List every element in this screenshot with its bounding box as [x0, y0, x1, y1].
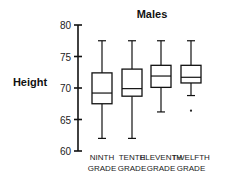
iqr-box [122, 69, 142, 96]
x-category-label: GRADE [118, 164, 146, 173]
y-tick-label: 60 [60, 146, 72, 157]
outlier-point [190, 110, 192, 112]
y-tick-label: 65 [60, 115, 72, 126]
box-plot-chart: Males Height 6065707580 NINTHGRADETENTHG… [0, 0, 230, 185]
box-twelfth-grade [181, 41, 201, 112]
x-axis-labels: NINTHGRADETENTHGRADEELEVENTHGRADETWELFTH… [88, 153, 210, 173]
x-category-label: GRADE [177, 164, 205, 173]
y-tick-label: 75 [60, 52, 72, 63]
y-tick-label: 70 [60, 83, 72, 94]
box-ninth-grade [92, 41, 112, 139]
box-tenth-grade [122, 41, 142, 139]
x-category-label: NINTH [90, 153, 115, 162]
chart-title: Males [137, 8, 168, 20]
box-eleventh-grade [151, 41, 171, 112]
x-category-label: TWELFTH [172, 153, 210, 162]
iqr-box [92, 73, 112, 104]
y-tick-label: 80 [60, 20, 72, 31]
x-category-label: GRADE [147, 164, 175, 173]
x-category-label: GRADE [88, 164, 116, 173]
box-group [92, 41, 201, 139]
y-axis-label: Height [13, 76, 48, 88]
iqr-box [181, 65, 201, 83]
y-axis: 6065707580 [60, 20, 82, 157]
